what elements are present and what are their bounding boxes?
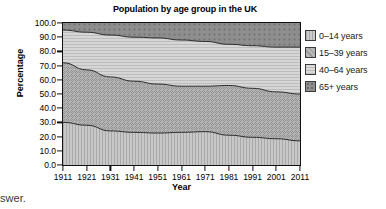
stacked-area-svg bbox=[63, 23, 300, 165]
x-tick-label: 2011 bbox=[291, 172, 309, 182]
x-axis-title: Year bbox=[62, 182, 301, 192]
x-tick-mark bbox=[299, 166, 300, 171]
x-tick-label: 1961 bbox=[172, 172, 191, 182]
x-tick-mark bbox=[157, 166, 158, 171]
x-tick-mark bbox=[228, 166, 229, 171]
x-tick-label: 2001 bbox=[267, 172, 286, 182]
y-tick-label: 20.0 bbox=[39, 132, 56, 142]
y-axis-ticks: 0.010.020.030.040.050.060.070.080.090.01… bbox=[0, 22, 62, 166]
plot-area bbox=[62, 22, 301, 166]
y-tick-label: 60.0 bbox=[39, 75, 56, 85]
x-tick-mark bbox=[252, 166, 253, 171]
y-tick-label: 0.0 bbox=[44, 160, 56, 170]
y-tick-label: 50.0 bbox=[39, 89, 56, 99]
y-tick-label: 10.0 bbox=[39, 146, 56, 156]
y-tick-label: 70.0 bbox=[39, 61, 56, 71]
x-tick-mark bbox=[276, 166, 277, 171]
y-tick-label: 90.0 bbox=[39, 32, 56, 42]
swatch-horizontal-lines-icon bbox=[305, 64, 316, 75]
x-tick-label: 1991 bbox=[243, 172, 262, 182]
x-tick-label: 1921 bbox=[77, 172, 96, 182]
legend-label-0-14: 0–14 years bbox=[319, 31, 363, 41]
x-tick-label: 1931 bbox=[101, 172, 120, 182]
y-tick-label: 40.0 bbox=[39, 103, 56, 113]
chart-legend: 0–14 years 15–39 years 40–64 years 65+ y… bbox=[305, 27, 386, 95]
x-tick-mark bbox=[86, 166, 87, 171]
y-tick-label: 30.0 bbox=[39, 117, 56, 127]
legend-label-40-64: 40–64 years bbox=[319, 65, 367, 75]
legend-item-0-14: 0–14 years bbox=[305, 27, 386, 44]
x-tick-label: 1981 bbox=[219, 172, 238, 182]
chart-title: Population by age group in the UK bbox=[60, 4, 310, 14]
legend-label-15-39: 15–39 years bbox=[319, 48, 367, 58]
page-leftover-text: nswer. bbox=[0, 192, 26, 204]
x-tick-label: 1971 bbox=[196, 172, 215, 182]
swatch-dotted-icon bbox=[305, 81, 316, 92]
y-tick-label: 100.0 bbox=[35, 18, 56, 28]
x-tick-label: 1951 bbox=[148, 172, 167, 182]
x-tick-mark bbox=[110, 166, 111, 171]
legend-item-65-plus: 65+ years bbox=[305, 78, 386, 95]
x-tick-mark bbox=[181, 166, 182, 171]
x-tick-mark bbox=[134, 166, 135, 171]
swatch-vertical-lines-icon bbox=[305, 30, 316, 41]
chart-figure: Population by age group in the UK Percen… bbox=[0, 0, 386, 209]
x-tick-label: 1911 bbox=[54, 172, 72, 182]
legend-item-15-39: 15–39 years bbox=[305, 44, 386, 61]
x-tick-label: 1941 bbox=[125, 172, 144, 182]
x-tick-mark bbox=[205, 166, 206, 171]
legend-item-40-64: 40–64 years bbox=[305, 61, 386, 78]
swatch-diagonal-hatch-icon bbox=[305, 47, 316, 58]
legend-label-65-plus: 65+ years bbox=[319, 82, 358, 92]
y-tick-label: 80.0 bbox=[39, 46, 56, 56]
x-tick-mark bbox=[62, 166, 63, 171]
